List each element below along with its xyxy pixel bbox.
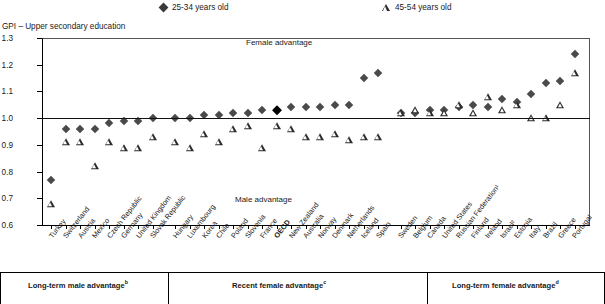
data-point-triangle — [229, 125, 237, 132]
data-point-triangle — [374, 133, 382, 140]
y-tick-label: 1.1 — [0, 87, 13, 96]
chart-footer: Long-term male advantageb Recent female … — [0, 272, 605, 304]
reference-line-1.0 — [42, 118, 590, 119]
data-point-triangle — [134, 144, 142, 151]
y-tick-label: 0.7 — [0, 194, 13, 203]
y-tick-mark — [37, 91, 42, 92]
data-point-triangle — [455, 101, 463, 108]
legend-item-45-54: 45-54 years old — [382, 3, 451, 12]
footer-separator — [0, 273, 1, 304]
y-tick-label: 1.0 — [0, 114, 13, 123]
data-point-triangle — [105, 138, 113, 145]
annotation-female-advantage: Female advantage — [246, 38, 312, 47]
y-tick-label: 0.8 — [0, 167, 13, 176]
footer-group-long-term-female: Long-term female advantaged — [452, 279, 559, 290]
data-point-triangle — [397, 109, 405, 116]
data-point-triangle — [287, 125, 295, 132]
legend-label: 25-34 years old — [172, 3, 228, 12]
plot-right-border — [589, 38, 590, 225]
data-point-triangle — [76, 138, 84, 145]
y-tick-label: 1.3 — [0, 34, 13, 43]
filled-diamond-icon — [159, 3, 169, 13]
data-point-triangle — [200, 130, 208, 137]
y-axis-title: GPI – Upper secondary education — [2, 22, 125, 31]
legend-item-25-34: 25-34 years old — [160, 3, 228, 12]
footer-separator — [427, 273, 428, 304]
data-point-triangle — [571, 69, 579, 76]
data-point-triangle — [215, 138, 223, 145]
y-tick-mark — [37, 38, 42, 39]
y-tick-mark — [37, 225, 42, 226]
data-point-triangle — [345, 136, 353, 143]
data-point-triangle — [258, 144, 266, 151]
y-tick-label: 0.9 — [0, 140, 13, 149]
data-point-triangle — [171, 138, 179, 145]
data-point-triangle — [91, 162, 99, 169]
data-point-triangle — [149, 133, 157, 140]
data-point-triangle — [513, 101, 521, 108]
data-point-triangle — [302, 133, 310, 140]
data-point-triangle — [411, 106, 419, 113]
chart-legend: 25-34 years old 45-54 years old — [0, 1, 605, 17]
data-point-triangle — [440, 109, 448, 116]
data-point-triangle — [556, 101, 564, 108]
y-tick-mark — [37, 172, 42, 173]
data-point-triangle — [47, 200, 55, 207]
data-point-triangle — [426, 109, 434, 116]
data-point-triangle — [120, 144, 128, 151]
footer-group-recent-female: Recent female advantagec — [232, 279, 326, 290]
data-point-triangle — [244, 122, 252, 129]
data-point-triangle — [498, 106, 506, 113]
y-tick-label: 1.2 — [0, 60, 13, 69]
data-point-triangle — [62, 138, 70, 145]
data-point-triangle — [273, 122, 281, 129]
footer-separator — [168, 273, 169, 304]
data-point-triangle — [469, 109, 477, 116]
data-point-triangle — [360, 133, 368, 140]
y-tick-label: 0.6 — [0, 221, 13, 230]
data-point-triangle — [484, 93, 492, 100]
data-point-triangle — [186, 144, 194, 151]
footer-group-long-term-male: Long-term male advantageb — [28, 279, 128, 290]
legend-label: 45-54 years old — [395, 3, 451, 12]
data-point-triangle — [316, 133, 324, 140]
annotation-male-advantage: Male advantage — [235, 195, 292, 204]
y-tick-mark — [37, 198, 42, 199]
plot-area — [42, 38, 590, 225]
y-tick-mark — [37, 65, 42, 66]
data-point-triangle — [331, 130, 339, 137]
open-triangle-icon — [382, 4, 390, 11]
y-tick-mark — [37, 145, 42, 146]
